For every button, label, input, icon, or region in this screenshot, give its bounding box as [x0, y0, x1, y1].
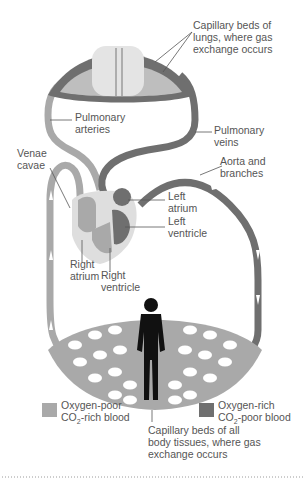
label-right-atrium: Right atrium — [70, 258, 99, 282]
capillary-gap — [68, 341, 82, 350]
capillary-gap — [203, 331, 217, 340]
label-venae-cavae: Venae cavae — [17, 147, 50, 171]
capillary-gap — [178, 346, 192, 355]
capillary-gap — [198, 351, 212, 360]
capillary-gap — [218, 358, 232, 367]
label-body-capillaries: Capillary beds of all body tissues, wher… — [148, 424, 264, 460]
label-right-ventricle: Right ventricle — [101, 269, 140, 293]
capillary-gap — [123, 396, 137, 405]
capillary-gap — [183, 391, 197, 400]
capillary-gap — [203, 374, 217, 383]
capillary-gap — [73, 358, 87, 367]
capillary-gap — [168, 381, 182, 390]
capillary-gap — [108, 326, 122, 335]
capillary-gap — [168, 396, 182, 405]
capillary-gap — [183, 326, 197, 335]
label-pulmonary-arteries: Pulmonary arteries — [75, 111, 128, 135]
label-left-ventricle: Left ventricle — [168, 215, 207, 239]
label-left-atrium: Left atrium — [168, 190, 197, 214]
lungs — [92, 46, 144, 96]
circulatory-diagram: Capillary beds of lungs, where gas excha… — [0, 0, 307, 479]
capillary-gap — [183, 368, 197, 377]
legend-label-oxygen-poor: Oxygen-poor CO2-rich blood — [61, 399, 130, 425]
capillary-gap — [88, 331, 102, 340]
label-lung-capillaries: Capillary beds of lungs, where gas excha… — [193, 19, 275, 55]
capillary-gap — [93, 351, 107, 360]
label-pulmonary-veins: Pulmonary veins — [214, 124, 267, 148]
capillary-gap — [88, 374, 102, 383]
legend-swatch-oxygen-poor — [42, 403, 57, 417]
legend-label-oxygen-rich: Oxygen-rich CO2-poor blood — [218, 399, 291, 425]
right-atrium — [78, 197, 96, 233]
capillary-gap — [123, 381, 137, 390]
capillary-gap — [113, 346, 127, 355]
legend-swatch-oxygen-rich — [199, 403, 214, 417]
label-aorta: Aorta and branches — [220, 155, 268, 179]
left-atrium — [113, 188, 131, 206]
capillary-gap — [108, 368, 122, 377]
capillary-gap — [223, 341, 237, 350]
